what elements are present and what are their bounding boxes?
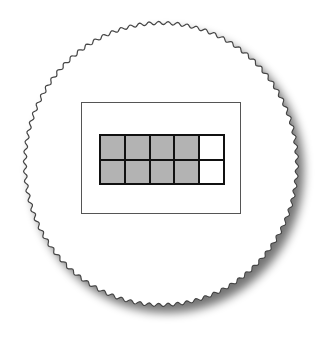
empty-cell [200, 161, 223, 184]
filled-cell [126, 161, 149, 184]
filled-cell [101, 161, 124, 184]
ten-frame-grid [99, 134, 225, 185]
filled-cell [175, 161, 198, 184]
filled-cell [151, 161, 174, 184]
filled-cell [151, 136, 174, 159]
filled-cell [101, 136, 124, 159]
filled-cell [175, 136, 198, 159]
filled-cell [126, 136, 149, 159]
empty-cell [200, 136, 223, 159]
